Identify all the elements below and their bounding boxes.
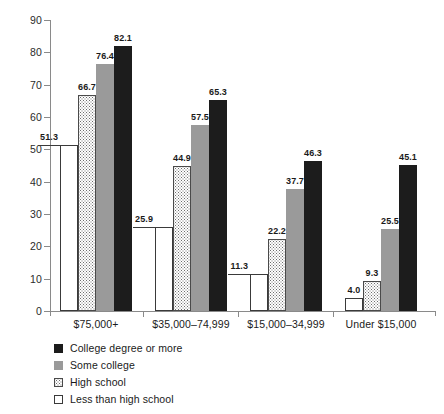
bar (381, 229, 399, 311)
y-axis-tick (44, 279, 50, 280)
y-axis-line (50, 20, 51, 312)
y-axis-tick-label: 30 (10, 209, 42, 219)
y-axis-tick-value: 90 (16, 15, 42, 25)
bar-value-label: 25.9 (123, 215, 153, 224)
y-axis-tick-label: 90 (10, 15, 42, 25)
bar (345, 298, 363, 311)
y-axis-tick (44, 85, 50, 86)
category-label: $35,000–74,999 (141, 318, 241, 330)
group-separator-tick (238, 312, 239, 317)
y-axis-tick-value: 80 (16, 47, 42, 57)
y-axis-tick-value: 40 (16, 177, 42, 187)
y-axis-tick (44, 214, 50, 215)
legend-item-label: Less than high school (70, 393, 174, 405)
y-axis-tick-value: 20 (16, 241, 42, 251)
y-axis-tick-label: 80 (10, 47, 42, 57)
y-axis-tick-label: 0 (10, 306, 42, 316)
legend-item: High school (54, 374, 354, 390)
legend-item: College degree or more (54, 340, 354, 356)
y-axis-tick (44, 182, 50, 183)
legend-swatch-icon (54, 361, 63, 370)
x-axis-start-tick (50, 311, 51, 316)
bar (209, 100, 227, 311)
bar-value-label: 11.3 (218, 262, 248, 271)
value-label-leader-line (38, 145, 60, 146)
legend-swatch-icon (54, 378, 63, 387)
plot-area: 0102030405060708090 51.366.776.482.125.9… (0, 0, 444, 330)
value-label-leader-line (228, 274, 250, 275)
y-axis-tick-label: 20 (10, 241, 42, 251)
bar (268, 239, 286, 311)
y-axis-tick-label: 10 (10, 274, 42, 284)
y-axis-tick (44, 246, 50, 247)
bar (363, 281, 381, 311)
legend-swatch-icon (54, 395, 63, 404)
legend-item-label: Some college (70, 359, 135, 371)
bar-chart: 0102030405060708090 51.366.776.482.125.9… (0, 0, 444, 414)
bar (286, 189, 304, 311)
bar-value-label: 82.1 (108, 34, 138, 43)
y-axis-tick-value: 70 (16, 80, 42, 90)
x-axis-end-tick (435, 311, 436, 316)
y-axis-tick-label: 70 (10, 80, 42, 90)
category-label: $75,000+ (46, 318, 146, 330)
category-label: $15,000–34,999 (236, 318, 336, 330)
bar-value-label: 45.1 (393, 153, 423, 162)
bar (155, 227, 173, 311)
bar-value-label: 65.3 (203, 88, 233, 97)
y-axis-tick-label: 40 (10, 177, 42, 187)
group-separator-tick (333, 312, 334, 317)
bar (173, 166, 191, 311)
bar-value-label: 51.3 (28, 133, 58, 142)
bar (114, 46, 132, 311)
y-axis-tick-value: 60 (16, 112, 42, 122)
legend-item: Some college (54, 357, 354, 373)
legend-item: Less than high school (54, 391, 354, 407)
y-axis-tick-value: 0 (16, 306, 42, 316)
legend: College degree or moreSome collegeHigh s… (54, 340, 354, 408)
legend-item-label: High school (70, 376, 126, 388)
category-label: Under $15,000 (331, 318, 431, 330)
group-separator-tick (143, 312, 144, 317)
value-label-leader-line (133, 227, 155, 228)
y-axis-tick-value: 10 (16, 274, 42, 284)
bar (96, 64, 114, 311)
bar (78, 95, 96, 311)
bar-value-label: 46.3 (298, 149, 328, 158)
bar (191, 125, 209, 311)
legend-swatch-icon (54, 344, 63, 353)
x-axis-line (50, 311, 436, 312)
y-axis-tick (44, 52, 50, 53)
y-axis-tick (44, 20, 50, 21)
y-axis-tick (44, 117, 50, 118)
legend-item-label: College degree or more (70, 342, 183, 354)
bar (399, 165, 417, 311)
y-axis-tick (44, 149, 50, 150)
y-axis-tick-label: 60 (10, 112, 42, 122)
bar (304, 161, 322, 311)
bar (60, 145, 78, 311)
bar (250, 274, 268, 311)
y-axis-tick-value: 30 (16, 209, 42, 219)
